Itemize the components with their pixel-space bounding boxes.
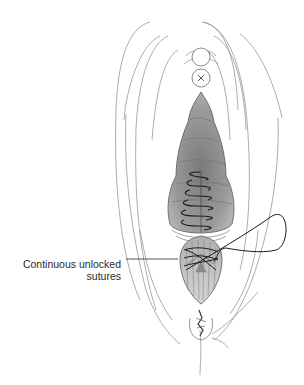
suture-label-line-2: sutures (20, 270, 121, 282)
suture-label-line-1: Continuous unlocked (20, 258, 121, 270)
anus (189, 310, 212, 340)
figure-canvas: Continuous unlocked sutures (0, 0, 304, 385)
perineal-repair-illustration (0, 0, 304, 385)
vaginal-mucosa (168, 92, 234, 233)
clitoral-urethral-landmarks (192, 48, 210, 87)
